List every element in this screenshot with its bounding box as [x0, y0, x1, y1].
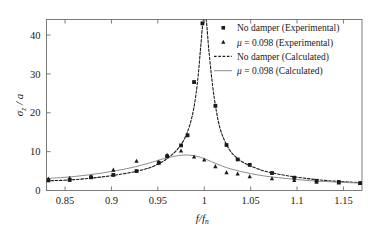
legend-item-label: μ = 0.098 (Calculated)	[236, 66, 323, 77]
data-point-marker	[135, 169, 139, 173]
y-tick-label: 30	[30, 69, 41, 80]
data-point-marker	[248, 163, 252, 167]
x-tick-label: 1	[202, 195, 207, 206]
legend-item-label: No damper (Calculated)	[237, 52, 329, 63]
data-point-marker	[192, 80, 196, 84]
legend-item: No damper (Experimental)	[222, 23, 340, 34]
chart-canvas: 010203040 0.850.90.9511.051.11.15 f/fnσz…	[0, 0, 378, 240]
chart-figure: 010203040 0.850.90.9511.051.11.15 f/fnσz…	[0, 0, 378, 240]
data-point-marker	[186, 133, 190, 137]
y-tick-label: 0	[35, 185, 40, 196]
legend-item-label: μ = 0.098 (Experimental)	[236, 38, 333, 49]
x-tick-label: 1.15	[334, 195, 352, 206]
data-point-marker	[111, 173, 115, 177]
data-point-marker	[179, 144, 183, 148]
data-point-marker	[213, 104, 217, 108]
legend-item: μ = 0.098 (Experimental)	[221, 38, 333, 49]
x-tick-label: 1.1	[290, 195, 303, 206]
x-tick-label: 0.9	[105, 195, 118, 206]
data-point-marker	[236, 158, 240, 162]
legend-item-label: No damper (Experimental)	[237, 23, 339, 34]
data-point-marker	[270, 171, 274, 175]
data-point-marker	[200, 21, 204, 25]
data-point-marker	[225, 143, 229, 147]
y-tick-label: 10	[30, 146, 41, 157]
y-tick-label: 20	[30, 107, 41, 118]
y-tick-label: 40	[30, 30, 41, 41]
legend-square-marker-icon	[222, 26, 226, 30]
x-tick-label: 0.95	[149, 195, 167, 206]
x-tick-label: 1.05	[241, 195, 259, 206]
x-tick-label: 0.85	[56, 195, 74, 206]
